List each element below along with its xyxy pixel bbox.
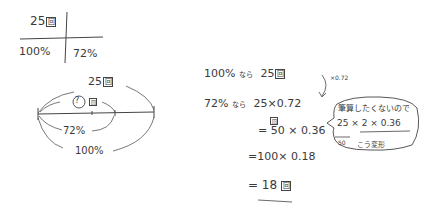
table-bottom-left: 100% xyxy=(19,45,50,58)
calc-connector: なら xyxy=(232,101,246,109)
number-line-25: 25 xyxy=(88,75,102,88)
calc-connector: なら xyxy=(239,71,253,79)
calc-value: 25 xyxy=(260,67,274,80)
table-value-25: 25 xyxy=(30,14,45,28)
calc-line-3: = 50 × 0.36 xyxy=(258,124,325,137)
table-top-left: 25回 xyxy=(30,14,56,28)
number-line-top-label: 25回 xyxy=(88,75,113,88)
calc-value: 25×0.72 xyxy=(253,97,301,110)
percent-72-label: 72% xyxy=(63,125,85,136)
bubble-under: 50 xyxy=(338,139,346,146)
calc-line-2: 72% なら 25×0.72 xyxy=(204,97,301,110)
unit-icon: 回 xyxy=(275,69,285,79)
calc-percent: 100% xyxy=(204,67,235,80)
calc-line-4: =100× 0.18 xyxy=(248,150,315,163)
unit-icon: 回 xyxy=(46,17,56,27)
percent-100-label: 100% xyxy=(75,145,104,156)
unit-icon: 回 xyxy=(281,181,291,191)
table-bottom-right: 72% xyxy=(73,47,97,60)
calc-percent: 72% xyxy=(204,97,228,110)
calc-line-5: = 18回 xyxy=(248,178,291,192)
unit-icon: 回 xyxy=(103,77,113,87)
calc-answer: = 18 xyxy=(248,178,277,192)
unit-icon: 回 xyxy=(89,98,97,106)
calc-line-1: 100% なら 25回 xyxy=(204,67,285,80)
bubble-note: こう変形 xyxy=(357,139,385,149)
unknown-unit: 回 xyxy=(88,97,97,106)
arrow-note: ×0.72 xyxy=(330,74,348,81)
unknown-label: ? xyxy=(75,96,79,105)
bubble-title: 筆算したくないので xyxy=(338,102,410,113)
bubble-expression: 25 × 2 × 0.36 xyxy=(337,118,401,128)
